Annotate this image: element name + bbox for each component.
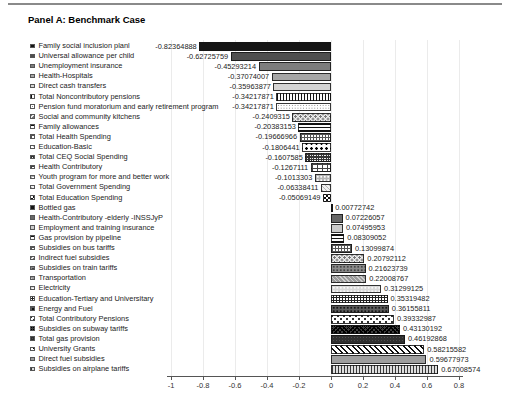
legend-marker (30, 205, 35, 210)
legend-item-label: Direct cash transfers (39, 81, 107, 91)
chart-title: Panel A: Benchmark Case (28, 14, 145, 25)
legend-marker (30, 44, 35, 49)
legend-marker (30, 84, 35, 89)
legend-marker (30, 316, 35, 321)
legend-item-label: Youth program for more and better work (39, 172, 170, 182)
bar-value-label: -0.1806441 (262, 143, 299, 153)
bar (331, 234, 344, 243)
bar-value-label: -0.1013303 (275, 173, 312, 183)
x-gridline (459, 40, 460, 376)
bar (331, 345, 424, 354)
bar-value-label: 0.07226057 (346, 213, 385, 223)
legend-item-label: Total Health Spending (39, 132, 111, 142)
x-axis-tick-label: -0.4 (261, 381, 274, 390)
legend-item-label: Employment and training insurance (39, 223, 155, 233)
legend-item-label: Subsidies on train tariffs (39, 263, 118, 273)
bar-value-label: -0.19666966 (256, 132, 298, 142)
bar-value-label: -0.20383153 (254, 122, 296, 132)
bar-value-label: 0.39332987 (397, 314, 436, 324)
bar (199, 42, 331, 51)
bar (331, 275, 366, 284)
bar (276, 93, 331, 102)
bar (276, 103, 331, 112)
bar (331, 305, 389, 314)
bar-value-label: -0.1267111 (272, 163, 308, 173)
bar (331, 315, 394, 324)
legend-item-label: Subsidies on bus tariffs (39, 243, 115, 253)
bar-value-label: 0.35319482 (391, 294, 430, 304)
x-gridline (203, 40, 204, 376)
bar (331, 295, 388, 304)
x-axis-tick-label: 0.2 (358, 381, 368, 390)
legend-item-label: Pension fund moratorium and early retire… (39, 102, 219, 112)
legend-item-label: Transportation (39, 273, 86, 283)
x-axis-tick-label: 0.6 (422, 381, 432, 390)
legend-item-label: Universal allowance per child (39, 51, 135, 61)
bar (315, 174, 331, 183)
bar (331, 285, 381, 294)
bar-value-label: -0.05069149 (279, 193, 321, 203)
legend-item-label: Total Contributory Pensions (39, 314, 129, 324)
legend-marker (30, 54, 35, 59)
legend-marker (30, 64, 35, 69)
legend-marker (30, 185, 35, 190)
legend-item-label: Total Noncontributory pensions (39, 92, 140, 102)
legend-item-label: Total Government Spending (39, 182, 131, 192)
bar (302, 143, 331, 152)
legend-marker (30, 235, 35, 240)
bar (323, 194, 331, 203)
bar (321, 184, 331, 193)
legend-marker (30, 296, 35, 301)
bar (272, 73, 331, 82)
bar-value-label: 0.21623739 (369, 264, 408, 274)
legend-marker (30, 286, 35, 291)
bar-value-label: 0.00772742 (335, 203, 374, 213)
x-axis-tick-label: 0.4 (390, 381, 400, 390)
bar-value-label: 0.46192868 (408, 334, 447, 344)
legend-item-label: Health-Hospitals (39, 71, 93, 81)
legend-marker (30, 134, 35, 139)
legend-item-label: Gas provision by pipeline (39, 233, 122, 243)
legend-item-label: Direct fuel subsidies (39, 354, 105, 364)
bar (331, 264, 366, 273)
legend-item-label: Unemployment insurance (39, 61, 123, 71)
legend-item-label: Health Contributory (39, 162, 103, 172)
x-axis-tick-label: -0.2 (293, 381, 306, 390)
legend-marker (30, 276, 35, 281)
legend-item-label: Bottled gas (39, 203, 76, 213)
legend-marker (30, 74, 35, 79)
bar (259, 62, 331, 71)
bar-value-label: 0.36155811 (392, 304, 431, 314)
bar-value-label: -0.37074007 (228, 72, 270, 82)
bar (331, 335, 405, 344)
bar-value-label: -0.34217871 (232, 102, 274, 112)
legend-marker (30, 175, 35, 180)
legend-marker (30, 114, 35, 119)
bar (331, 224, 343, 233)
legend-marker (30, 266, 35, 271)
bar-value-label: 0.08309052 (347, 233, 386, 243)
bar-value-label: -0.82364888 (155, 42, 197, 52)
bar (331, 244, 352, 253)
bar (331, 325, 400, 334)
legend-item-label: Electricity (39, 283, 71, 293)
bar-value-label: -0.35963877 (229, 82, 271, 92)
bar (331, 254, 364, 263)
legend-marker (30, 165, 35, 170)
legend-marker (30, 155, 35, 160)
bar (273, 83, 331, 92)
legend-item-label: Subsidies on airplane tariffs (39, 364, 130, 374)
legend-item-label: Subsidies on subway tariffs (39, 324, 128, 334)
bar-value-label: 0.13099874 (355, 244, 394, 254)
bar-value-label: -0.2409315 (253, 112, 290, 122)
bar-value-label: -0.45293214 (215, 62, 257, 72)
legend-marker (30, 145, 35, 150)
legend-marker (30, 367, 35, 372)
legend-marker (30, 306, 35, 311)
legend-marker (30, 94, 35, 99)
legend-marker (30, 195, 35, 200)
legend-marker (30, 336, 35, 341)
bar-value-label: -0.62725759 (187, 52, 229, 62)
x-axis-line (167, 376, 463, 377)
x-axis-tick-label: 0.8 (454, 381, 464, 390)
